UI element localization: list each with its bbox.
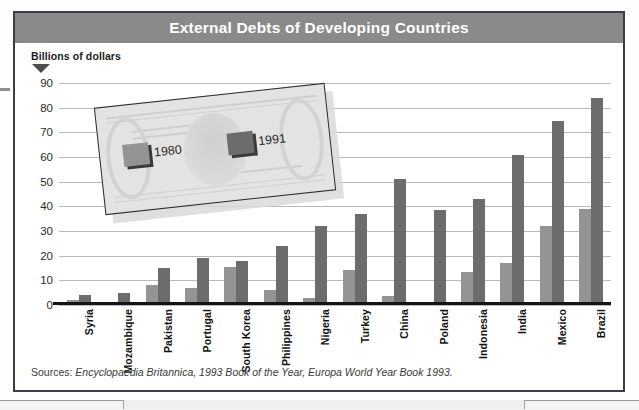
x-axis-label: China [398, 309, 410, 339]
bar-group [572, 98, 611, 305]
bar-1991 [473, 199, 485, 305]
bar-1991 [434, 210, 446, 305]
bar-1980 [461, 272, 473, 305]
legend-spacer [192, 146, 218, 149]
y-axis-caption: Billions of dollars [31, 50, 121, 62]
x-axis-label: Nigeria [319, 309, 331, 345]
x-axis-label: Philippines [280, 309, 292, 366]
sources-body: Encyclopaedia Britannica, 1993 Book of t… [75, 366, 452, 378]
bar-1980 [540, 226, 552, 305]
bar-group [217, 261, 256, 305]
chart-card: External Debts of Developing Countries B… [13, 11, 625, 392]
bar-group [335, 214, 374, 305]
bar-1991 [552, 121, 564, 305]
bar-group [414, 210, 453, 305]
x-axis-label: South Korea [240, 309, 252, 373]
x-axis-label: Poland [438, 309, 450, 345]
y-axis-tick-label: 80 [40, 102, 53, 114]
y-axis-tick-label: 30 [40, 225, 53, 237]
bar-1980 [579, 209, 591, 305]
legend-label-1991: 1991 [257, 131, 286, 148]
caption-arrow-icon [32, 64, 50, 73]
x-axis-label: Syria [83, 309, 95, 335]
bar-group [493, 155, 532, 305]
bar-1991 [158, 268, 170, 305]
bar-1991 [355, 214, 367, 305]
x-axis-label: Portugal [201, 309, 213, 352]
page-title: External Debts of Developing Countries [169, 19, 469, 37]
bar-1991 [236, 261, 248, 305]
y-axis-tick-label: 0 [47, 299, 53, 311]
bar-group [453, 199, 492, 305]
scan-edge-tick [0, 88, 10, 91]
legend-swatch-1991 [226, 131, 254, 156]
chart-title-bar: External Debts of Developing Countries [15, 13, 623, 43]
bar-group [256, 246, 295, 305]
bar-group [296, 226, 335, 305]
gridline: 90 [59, 83, 611, 84]
x-axis-label: Pakistan [162, 309, 174, 353]
scan-bottom-box [123, 400, 525, 409]
bar-1980 [500, 263, 512, 305]
x-axis-label: Turkey [359, 309, 371, 343]
y-axis-tick-label: 70 [40, 126, 53, 138]
bar-1991 [512, 155, 524, 305]
x-axis-label: India [516, 309, 528, 334]
y-axis-tick-label: 40 [40, 200, 53, 212]
sources-note: Sources: Encyclopaedia Britannica, 1993 … [31, 366, 453, 378]
y-axis-tick-label: 20 [40, 250, 53, 262]
x-axis-label: Mozambique [122, 309, 134, 374]
bar-group [532, 121, 571, 305]
y-axis-tick-label: 50 [40, 176, 53, 188]
x-axis-label: Brazil [595, 309, 607, 338]
bar-group [177, 258, 216, 305]
x-axis-label: Indonesia [477, 309, 489, 359]
y-axis-tick-label: 60 [40, 151, 53, 163]
y-axis-tick-label: 10 [40, 274, 53, 286]
x-axis-baseline [53, 302, 611, 305]
gridline: 0 [59, 305, 611, 306]
sources-label: Sources: [31, 366, 72, 378]
bar-1980 [343, 270, 355, 305]
x-axis-label: Mexico [556, 309, 568, 345]
bar-1980 [224, 267, 236, 305]
bar-1991 [394, 179, 406, 305]
bar-group [374, 179, 413, 305]
bar-1991 [591, 98, 603, 305]
bar-group [138, 268, 177, 305]
bar-1991 [197, 258, 209, 305]
bar-1991 [276, 246, 288, 305]
bar-1991 [315, 226, 327, 305]
y-axis-tick-label: 90 [40, 77, 53, 89]
legend-swatch-1980 [122, 142, 150, 167]
legend-label-1980: 1980 [153, 143, 182, 160]
